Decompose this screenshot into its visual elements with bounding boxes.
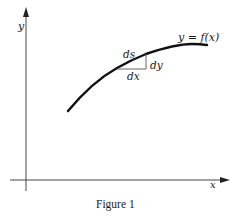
x-axis-label: x xyxy=(210,179,216,190)
dy-label: dy xyxy=(150,59,164,71)
curve-label: y = f(x) xyxy=(177,31,219,44)
x-axis-arrow-icon xyxy=(220,177,230,183)
y-axis-label: y xyxy=(17,20,25,33)
figure-caption: Figure 1 xyxy=(96,198,135,211)
y-axis-arrow-icon xyxy=(23,7,29,17)
arc-length-diagram: y x ds dy dx y = f(x) Figure 1 xyxy=(0,0,245,216)
ds-label: ds xyxy=(123,48,136,60)
dx-label: dx xyxy=(127,70,140,82)
